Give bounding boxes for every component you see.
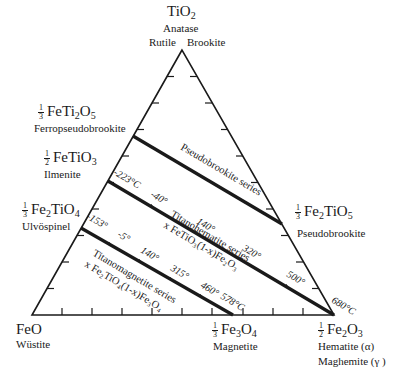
ilmenite-label: Ilmenite [44,169,81,180]
frac-den: 3 [22,211,28,219]
fraction: 13 [295,204,301,221]
ulvospinel-label: Ulvöspinel [22,221,70,232]
temp-label: -5° [116,228,132,244]
tio2-text: TiO [167,3,191,19]
magnetite-formula: 13Fe3O4 [212,322,257,339]
magnetite-label: Magnetite [213,341,258,352]
temp-label: -153° [85,210,110,231]
tio2-sub: 2 [191,10,196,21]
frac-den: 3 [38,113,44,121]
frac-den: 3 [295,213,301,221]
temp-label: 140° [139,244,161,263]
hematite-label: Hematite (α) [318,341,374,352]
ternary-diagram: Pseudobrookite series Titanohematite ser… [0,0,399,381]
brookite-label: Brookite [187,37,226,48]
ferropseudobrookite-label: Ferropseudobrookite [34,123,126,134]
fraction: 13 [212,322,218,339]
frac-den: 3 [212,331,218,339]
fraction: 12 [44,150,50,167]
frac-den: 2 [44,159,50,167]
temp-label: 460° [199,279,221,298]
rutile-label: Rutile [149,37,176,48]
fraction: 12 [318,322,324,339]
pseudobrookite-label: Pseudobrookite [297,228,365,239]
maghemite-label: Maghemite (γ ) [318,356,386,367]
bottom-ticks [62,308,303,315]
pseudobrookite-formula: 13Fe2TiO5 [295,204,353,221]
fe2o3-formula: 12Fe2O3 [318,322,363,339]
wustite-label: Wüstite [16,339,50,350]
anatase-label: Anatase [163,23,198,34]
temp-label: -40° [149,188,170,206]
feo-formula: FeO [16,322,42,337]
ilmenite-formula: 12FeTiO3 [44,150,97,167]
temp-label: 500° [285,268,307,287]
tio2-label: TiO2 [167,4,196,21]
fraction: 13 [22,202,28,219]
ulvospinel-formula: 13Fe2TiO4 [22,202,80,219]
frac-den: 2 [318,331,324,339]
ferropseudobrookite-formula: 13FeTi2O5 [38,104,96,121]
fraction: 13 [38,104,44,121]
